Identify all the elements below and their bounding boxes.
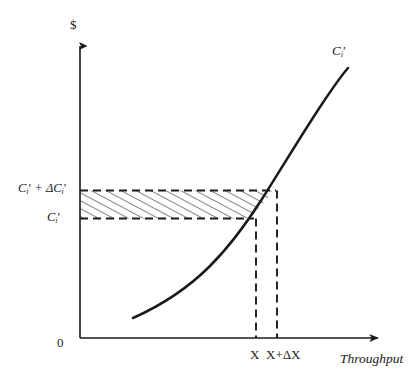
curve-label: Ci′ — [332, 44, 346, 59]
curve-label-base: C — [332, 43, 341, 58]
delta-cost-band — [80, 190, 275, 219]
y-upper-operator: + — [34, 181, 42, 195]
figure-canvas: $ 0 Ci′ + ΔCi′ Ci′ X X+ΔX Throughput Ci′ — [0, 0, 413, 386]
y-lower-prime: ′ — [58, 210, 61, 224]
y-tick-label-lower-cost: Ci′ — [47, 211, 60, 224]
x-axis-title: Throughput — [340, 352, 403, 366]
y-axis-unit-label: $ — [70, 18, 77, 31]
x-tick-label-x-plus-delta: X+ΔX — [266, 348, 300, 361]
origin-label: 0 — [57, 336, 64, 349]
y-upper-base2: C — [53, 181, 61, 195]
y-tick-label-upper-cost: Ci′ + ΔCi′ — [18, 182, 67, 195]
curve-label-prime: ′ — [343, 43, 346, 58]
y-upper-prime2: ′ — [64, 181, 67, 195]
y-upper-prime: ′ — [29, 181, 32, 195]
x-tick-label-x: X — [250, 348, 259, 361]
